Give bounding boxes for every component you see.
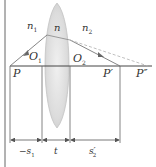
label-P: P: [12, 67, 21, 80]
label-P-double-prime: P″: [135, 67, 148, 80]
label-O1: O1: [29, 50, 42, 64]
label-s2-prime: s′2: [89, 146, 96, 158]
label-t: t: [54, 146, 58, 156]
label-O2: O2: [73, 52, 86, 66]
label-minus-s1: −s1: [19, 146, 35, 158]
label-n: n: [54, 22, 60, 33]
thick-lens-diagram: n1 n n2 O1 O2 P P′ P″ −s1 t s′2: [0, 0, 156, 167]
label-P-prime: P′: [102, 67, 113, 80]
label-n2: n2: [82, 22, 92, 35]
ray-arrow-2: [98, 52, 104, 57]
label-n1: n1: [27, 20, 37, 33]
